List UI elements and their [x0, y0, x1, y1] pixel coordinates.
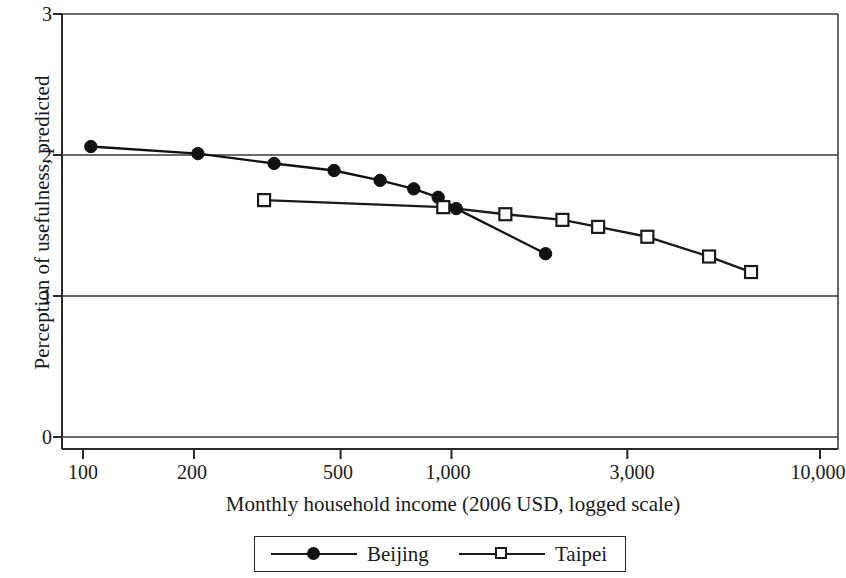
- x-tick-label-500: 500: [298, 461, 378, 484]
- legend-entry-taipei: Taipei: [459, 537, 607, 571]
- x-tick-label-100: 100: [43, 461, 123, 484]
- y-tick-label-2: 2: [22, 144, 52, 167]
- taipei-line-marker-icon: [459, 544, 545, 564]
- tick-marks-group: [53, 14, 820, 459]
- marker-taipei-2: [499, 208, 511, 220]
- marker-taipei-0: [258, 194, 270, 206]
- x-tick-label-3000: 3,000: [582, 461, 682, 484]
- x-tick-label-1000: 1,000: [398, 461, 498, 484]
- chart-legend: Beijing Taipei: [254, 536, 626, 572]
- marker-taipei-4: [592, 221, 604, 233]
- series-lines-group: [91, 147, 751, 272]
- marker-beijing-1: [192, 147, 204, 159]
- marker-beijing-8: [539, 248, 551, 260]
- marker-beijing-7: [450, 202, 462, 214]
- gridlines-group: [62, 14, 838, 437]
- marker-taipei-5: [641, 231, 653, 243]
- y-tick-label-1: 1: [22, 285, 52, 308]
- marker-beijing-4: [374, 174, 386, 186]
- marker-taipei-6: [703, 251, 715, 263]
- marker-beijing-5: [408, 183, 420, 195]
- legend-label-taipei: Taipei: [555, 542, 607, 567]
- marker-taipei-1: [437, 201, 449, 213]
- y-axis-label: Perception of usefulness, predicted: [30, 13, 55, 433]
- y-tick-label-0: 0: [22, 426, 52, 449]
- marker-beijing-3: [328, 164, 340, 176]
- x-tick-label-10000: 10,000: [758, 461, 846, 484]
- x-tick-label-200: 200: [152, 461, 232, 484]
- series-markers-group: [85, 140, 757, 278]
- y-tick-label-3: 3: [22, 3, 52, 26]
- series-line-beijing: [91, 147, 546, 254]
- chart-figure: Perception of usefulness, predicted Mont…: [0, 0, 846, 578]
- axis-lines-group: [62, 14, 838, 449]
- legend-entry-beijing: Beijing: [271, 537, 429, 571]
- x-axis-label: Monthly household income (2006 USD, logg…: [60, 492, 846, 517]
- marker-beijing-2: [268, 157, 280, 169]
- marker-taipei-3: [556, 214, 568, 226]
- beijing-line-marker-icon: [271, 544, 357, 564]
- legend-label-beijing: Beijing: [367, 542, 429, 567]
- marker-beijing-0: [85, 140, 97, 152]
- marker-taipei-7: [745, 266, 757, 278]
